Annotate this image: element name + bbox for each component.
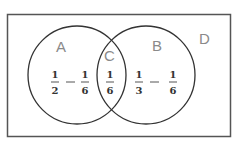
venn-diagram: A B C D 1 2 1 6 1 6 1 3 1 6 — [0, 0, 237, 143]
c-denominator: 6 — [107, 85, 114, 96]
label-a: A — [56, 38, 66, 55]
region-b-expression: 1 3 1 6 — [135, 69, 177, 96]
b-term1-numerator: 1 — [136, 69, 143, 80]
label-c: C — [104, 47, 115, 64]
a-term1-numerator: 1 — [52, 69, 59, 80]
b-term1-denominator: 3 — [136, 85, 143, 96]
universe-rectangle — [8, 15, 231, 137]
a-term1-denominator: 2 — [52, 85, 59, 96]
a-term2-denominator: 6 — [82, 85, 89, 96]
c-numerator: 1 — [107, 69, 114, 80]
intersection-expression: 1 6 — [106, 69, 114, 96]
region-a-expression: 1 2 1 6 — [51, 69, 89, 96]
label-b: B — [152, 37, 162, 54]
b-term2-denominator: 6 — [170, 85, 177, 96]
label-d: D — [199, 30, 210, 47]
a-term2-numerator: 1 — [82, 69, 89, 80]
b-term2-numerator: 1 — [170, 69, 177, 80]
